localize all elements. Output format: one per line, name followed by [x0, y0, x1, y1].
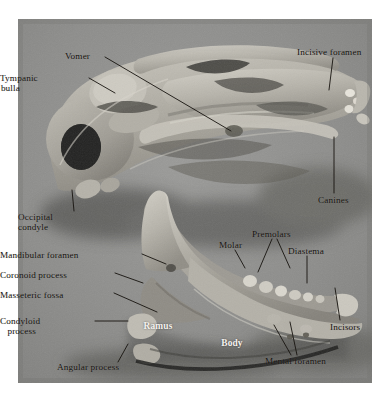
label-incisors: Incisors: [330, 322, 360, 332]
label-body: Body: [192, 338, 272, 348]
label-masseteric-fossa: Masseteric fossa: [0, 290, 39, 300]
label-incisive-foramen: Incisive foramen: [297, 47, 361, 57]
label-mandibular-foramen: Mandibular foramen: [0, 250, 48, 260]
label-tympanic-bulla: Tympanic bulla: [0, 73, 20, 94]
label-ramus: Ramus: [118, 321, 198, 331]
label-molar: Molar: [219, 240, 242, 250]
label-condyloid-process: Condyloid process: [0, 316, 36, 337]
figure-plate: VomerTympanic bullaIncisive foramenCanin…: [0, 0, 385, 400]
label-mental-foramen: Mental foramen: [265, 356, 326, 366]
label-diastema: Diastema: [288, 246, 324, 256]
label-occipital-condyle: Occipital condyle: [18, 212, 53, 233]
label-vomer: Vomer: [65, 51, 90, 61]
label-coronoid-process: Coronoid process: [0, 270, 33, 280]
label-premolars: Premolars: [252, 229, 291, 239]
label-canines: Canines: [318, 195, 349, 205]
label-angular-process: Angular process: [57, 362, 119, 372]
